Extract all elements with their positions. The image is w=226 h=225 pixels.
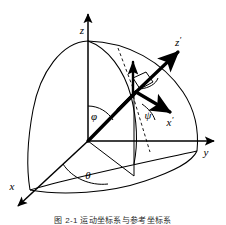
phi-angle-label: φ — [91, 110, 97, 122]
x-prime-axis — [136, 92, 170, 112]
y-axis-label: y — [203, 146, 209, 158]
dashed-node-line-upper — [118, 48, 133, 88]
z-axis-label: z — [79, 24, 85, 36]
body-axes-group — [118, 52, 178, 112]
x-prime-axis-label: x′ — [166, 115, 175, 128]
angle-arc-group — [63, 104, 155, 184]
octant-left-meridian — [28, 41, 88, 190]
psi-angle-label: ψ — [145, 109, 152, 121]
theta-angle-label: θ — [85, 169, 91, 181]
z-prime-axis-label: z′ — [174, 35, 182, 48]
octant-inner-meridian — [88, 41, 136, 164]
z-prime-mark: ′ — [179, 35, 182, 45]
euler-angle-diagram: z y x z′ x′ φ θ ψ — [0, 0, 226, 225]
x-axis-label: x — [9, 180, 15, 192]
figure-container: z y x z′ x′ φ θ ψ 图 2-1 运动坐标系与参考坐标系 — [0, 0, 226, 225]
z-prime-axis — [136, 52, 178, 92]
figure-caption: 图 2-1 运动坐标系与参考坐标系 — [0, 216, 226, 225]
horizontal-projection-line — [88, 141, 134, 176]
x-prime-mark: ′ — [171, 115, 174, 125]
angle-label-group: φ θ ψ — [85, 109, 151, 181]
